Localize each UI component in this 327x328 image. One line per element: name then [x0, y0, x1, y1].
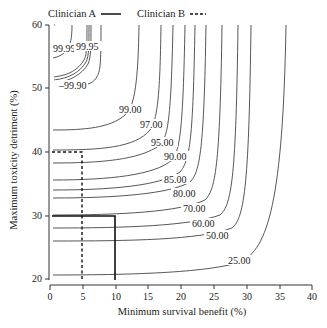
contour-label-99-00: 99.00: [119, 104, 142, 115]
x-tick-30: 30: [242, 291, 252, 302]
x-tick-15: 15: [143, 291, 153, 302]
x-axis: 0 5 10 15 20 25 30 35 40 Minimum surviva…: [48, 285, 318, 318]
contour-label-99-99: 99.99: [53, 43, 76, 54]
contour-label-99-90: –99.90: [58, 80, 87, 91]
y-tick-50: 50: [32, 82, 42, 93]
y-axis-label: Maximum toxicity detriment (%): [8, 90, 20, 230]
contour-label-80-00: 80.00: [173, 188, 196, 199]
contour-label-90-00: 90.00: [164, 151, 187, 162]
contour-chart: Clinician A Clinician B 60 50 40 30 20 M…: [0, 0, 327, 328]
y-axis: 60 50 40 30 20 Maximum toxicity detrimen…: [8, 19, 49, 284]
x-tick-0: 0: [48, 291, 53, 302]
legend-label-clinician-b: Clinician B: [137, 8, 185, 19]
contour-lines: [53, 25, 286, 275]
contour-label-50-00: 50.00: [206, 230, 229, 241]
contour-label-85-00: 85.00: [164, 174, 187, 185]
x-tick-40: 40: [307, 291, 317, 302]
contour-label-97-00: 97.00: [140, 119, 163, 130]
x-tick-5: 5: [81, 291, 86, 302]
contour-label-70-00: 70.00: [183, 203, 206, 214]
x-axis-label: Minimum survival benefit (%): [118, 306, 247, 318]
contour-label-60-00: 60.00: [192, 218, 215, 229]
x-tick-25: 25: [209, 291, 219, 302]
contour-label-99-95: 99.95: [76, 41, 99, 52]
x-tick-35: 35: [275, 291, 285, 302]
x-tick-20: 20: [176, 291, 186, 302]
legend-label-clinician-a: Clinician A: [48, 8, 97, 19]
clinician-a-threshold: [52, 216, 115, 280]
x-tick-10: 10: [111, 291, 121, 302]
contour-label-25-00: 25.00: [228, 255, 251, 266]
y-tick-20: 20: [32, 273, 42, 284]
y-tick-60: 60: [32, 19, 42, 30]
y-tick-40: 40: [32, 146, 42, 157]
contour-label-95-00: 95.00: [151, 137, 174, 148]
y-tick-30: 30: [32, 210, 42, 221]
legend: Clinician A Clinician B: [48, 8, 206, 19]
